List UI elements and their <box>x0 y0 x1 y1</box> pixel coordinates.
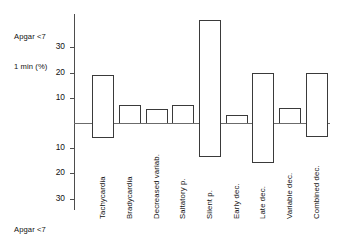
bar-upper <box>146 109 168 123</box>
category-label: Early dec. <box>232 183 241 219</box>
y-tick-label: 30 <box>56 41 65 52</box>
plot-area: 302010102030 TachycardiaBradycardiaDecre… <box>74 14 330 210</box>
bar-lower <box>306 123 328 137</box>
bar-lower <box>199 123 221 157</box>
category-label: Combined dec. <box>312 165 321 219</box>
y-tick-label: 10 <box>56 92 65 103</box>
y-tick-upper: 20 <box>70 73 75 74</box>
category-label: Tachycardia <box>98 176 107 219</box>
category-label: Silent p. <box>205 190 214 219</box>
top-caption-line-2: 1 min (%) <box>14 62 47 72</box>
bar-upper <box>172 105 194 123</box>
bar-upper <box>226 115 248 123</box>
y-tick-upper: 30 <box>70 47 75 48</box>
category-label: Bradycardia <box>125 176 134 219</box>
bar-upper <box>199 20 221 123</box>
top-axis-caption: Apgar <7 1 min (%) <box>14 12 47 92</box>
bottom-axis-caption: Apgar <7 5 min (%) <box>14 205 47 238</box>
bottom-caption-line-1: Apgar <7 <box>14 225 47 235</box>
bar-lower <box>92 123 114 138</box>
y-tick-lower: 20 <box>70 173 75 174</box>
y-tick-label: 30 <box>56 193 65 204</box>
bar-upper <box>92 75 114 123</box>
top-caption-line-1: Apgar <7 <box>14 32 47 42</box>
bar-upper <box>119 105 141 123</box>
y-axis-spine <box>74 14 75 210</box>
y-tick-upper: 10 <box>70 98 75 99</box>
bar-lower <box>252 123 274 163</box>
bar-upper <box>279 108 301 123</box>
y-tick-label: 20 <box>56 167 65 178</box>
y-tick-lower: 30 <box>70 199 75 200</box>
bar-upper <box>252 73 274 123</box>
category-label: Late dec. <box>258 186 267 219</box>
category-label: Saltatory p. <box>178 178 187 219</box>
category-label: Decreased variab. <box>152 154 161 219</box>
category-label: Variable dec. <box>285 173 294 219</box>
y-tick-label: 10 <box>56 142 65 153</box>
chart-figure: Apgar <7 1 min (%) Apgar <7 5 min (%) 30… <box>0 0 342 238</box>
bar-upper <box>306 73 328 123</box>
y-tick-label: 20 <box>56 67 65 78</box>
y-tick-lower: 10 <box>70 148 75 149</box>
